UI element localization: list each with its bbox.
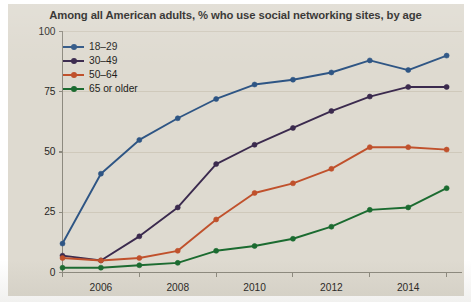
data-point	[444, 53, 449, 58]
data-point	[252, 142, 257, 147]
data-point	[60, 256, 65, 261]
data-point	[175, 248, 180, 253]
data-point	[290, 236, 295, 241]
data-point	[406, 84, 411, 89]
data-point	[444, 186, 449, 191]
data-point	[367, 207, 372, 212]
y-tick-label: 50	[22, 146, 56, 157]
legend-swatch-icon	[63, 56, 84, 67]
data-point	[60, 241, 65, 246]
x-tick-label: 2010	[232, 282, 278, 293]
data-point	[214, 217, 219, 222]
x-tick-label: 2006	[78, 282, 124, 293]
data-point	[367, 58, 372, 63]
series-line-3	[63, 188, 447, 268]
x-tick-label: 2014	[385, 282, 431, 293]
data-point	[137, 137, 142, 142]
legend-swatch-icon	[63, 70, 84, 81]
legend-item-1[interactable]: 30–49	[63, 54, 213, 68]
data-point	[137, 234, 142, 239]
data-point	[329, 109, 334, 114]
data-point	[444, 147, 449, 152]
data-point	[406, 145, 411, 150]
x-tick-label: 2008	[155, 282, 201, 293]
data-point	[98, 258, 103, 263]
data-point	[175, 205, 180, 210]
legend-item-0[interactable]: 18–29	[63, 40, 213, 54]
data-point	[444, 84, 449, 89]
data-point	[98, 265, 103, 270]
data-point	[290, 125, 295, 130]
data-point	[367, 94, 372, 99]
data-point	[290, 181, 295, 186]
data-point	[175, 260, 180, 265]
data-point	[406, 205, 411, 210]
data-point	[98, 171, 103, 176]
data-point	[252, 190, 257, 195]
legend-swatch-icon	[63, 42, 84, 53]
legend-item-2[interactable]: 50–64	[63, 68, 213, 82]
data-point	[367, 145, 372, 150]
legend-item-label: 18–29	[89, 42, 117, 52]
legend-item-label: 65 or older	[89, 84, 138, 94]
chart-legend: 18–2930–4950–6465 or older	[63, 40, 213, 96]
data-point	[329, 70, 334, 75]
data-point	[175, 116, 180, 121]
legend-item-3[interactable]: 65 or older	[63, 82, 213, 96]
y-tick-label: 100	[22, 26, 56, 37]
data-point	[214, 162, 219, 167]
data-point	[329, 224, 334, 229]
chart-figure: Among all American adults, % who use soc…	[0, 0, 471, 302]
data-point	[137, 256, 142, 261]
data-point	[252, 243, 257, 248]
data-point	[329, 166, 334, 171]
data-point	[214, 96, 219, 101]
data-point	[252, 82, 257, 87]
series-line-1	[63, 87, 447, 261]
data-point	[137, 263, 142, 268]
data-point	[214, 248, 219, 253]
data-point	[290, 77, 295, 82]
legend-item-label: 50–64	[89, 70, 117, 80]
y-tick-label: 75	[22, 86, 56, 97]
data-point	[60, 265, 65, 270]
y-tick-label: 25	[22, 206, 56, 217]
legend-item-label: 30–49	[89, 56, 117, 66]
legend-swatch-icon	[63, 84, 84, 95]
data-point	[406, 68, 411, 73]
x-tick-label: 2012	[308, 282, 354, 293]
y-tick-label: 0	[22, 267, 56, 278]
